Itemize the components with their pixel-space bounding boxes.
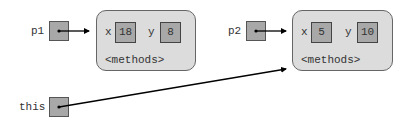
methods-label: <methods> [301,54,360,66]
point-object-1: x 18 y 8 <methods> [96,10,196,71]
variable-label-p1: p1 [31,25,44,37]
methods-label: <methods> [105,54,164,66]
variable-label-this: this [19,101,45,113]
field-value-y: 10 [357,22,378,43]
memory-diagram: p1 p2 this x 18 y 8 <methods> x 5 y 10 <… [0,0,413,123]
arrow-this-to-object2 [57,69,286,109]
field-value-y: 8 [160,22,181,43]
point-object-2: x 5 y 10 <methods> [292,10,393,71]
field-label-y: y [345,26,352,38]
field-label-x: x [105,26,112,38]
field-label-y: y [148,26,155,38]
reference-box-p2 [246,21,266,41]
field-value-x: 5 [311,22,332,43]
field-value-x: 18 [115,22,136,43]
variable-label-p2: p2 [228,25,241,37]
reference-box-this [49,97,69,117]
field-label-x: x [301,26,308,38]
reference-box-p1 [49,21,69,41]
